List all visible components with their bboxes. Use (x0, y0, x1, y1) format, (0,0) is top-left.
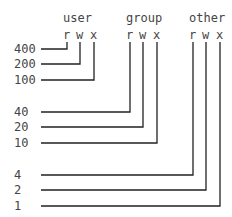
line-20 (41, 42, 143, 127)
line-10 (41, 42, 157, 143)
connector-lines (0, 0, 232, 217)
line-40 (41, 42, 130, 112)
line-4 (41, 42, 193, 175)
line-400 (41, 42, 67, 49)
line-200 (41, 42, 80, 64)
